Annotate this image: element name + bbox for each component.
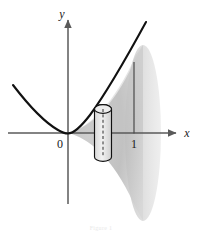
representative-disk	[95, 105, 112, 162]
origin-label: 0	[57, 137, 63, 151]
x-tick-label-1: 1	[131, 137, 137, 151]
figure-caption: Figure 1	[90, 225, 113, 231]
x-axis-label: x	[183, 126, 190, 140]
y-axis-label: y	[58, 7, 65, 21]
solid-of-revolution-diagram: y x 0 1 Figure 1	[0, 0, 203, 234]
figure-container: y x 0 1 Figure 1	[0, 0, 203, 234]
